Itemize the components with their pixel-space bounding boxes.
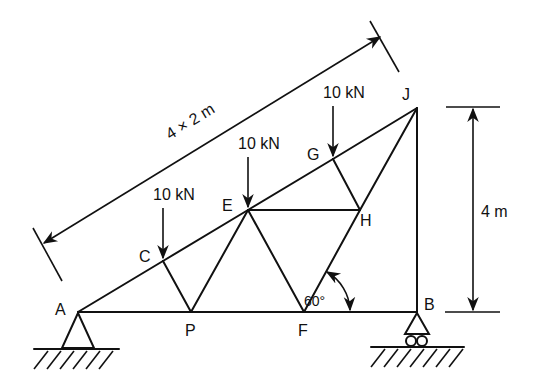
roller-support-B	[371, 313, 464, 367]
dimension-tick-right	[370, 21, 399, 72]
member-CP	[163, 261, 191, 312]
angle-marker: 60°	[304, 272, 350, 310]
hatch-line	[410, 349, 424, 367]
member-EF	[248, 210, 304, 312]
pin-support-triangle	[62, 313, 94, 348]
node-label-H: H	[360, 212, 372, 229]
hatch-line	[47, 351, 61, 369]
load-label-E: 10 kN	[238, 135, 280, 152]
member-GJ	[333, 108, 417, 159]
node-label-C: C	[139, 248, 151, 265]
hatch-line	[86, 351, 100, 369]
top-chord-dimension: 4 × 2 m	[33, 21, 399, 281]
hatch-line	[436, 349, 450, 367]
node-label-B: B	[424, 296, 435, 313]
hatch-line	[34, 351, 48, 369]
load-label-C: 10 kN	[153, 186, 195, 203]
height-dimension: 4 m	[445, 107, 508, 312]
hatch-line	[73, 351, 87, 369]
member-CE	[163, 210, 248, 261]
member-AC	[78, 261, 163, 312]
roller-left	[406, 336, 416, 346]
roller-right	[417, 336, 427, 346]
roller-support-triangle	[405, 313, 429, 334]
node-label-J: J	[402, 86, 410, 103]
member-EG	[248, 159, 333, 210]
dimension-line-top-chord	[44, 37, 380, 243]
node-label-A: A	[55, 301, 66, 318]
hatch-line	[384, 349, 398, 367]
ground-hatch-A	[34, 351, 113, 369]
hatch-line	[423, 349, 437, 367]
member-GH	[333, 159, 360, 210]
hatch-line	[60, 351, 74, 369]
node-label-P: P	[185, 322, 196, 339]
angle-arc	[327, 272, 350, 310]
ground-hatch-B	[371, 349, 463, 367]
node-label-F: F	[298, 322, 308, 339]
hatch-line	[449, 349, 463, 367]
member-HJ	[360, 108, 417, 210]
angle-label: 60°	[304, 293, 325, 309]
load-label-G: 10 kN	[323, 84, 365, 101]
dimension-label-height: 4 m	[481, 203, 508, 220]
hatch-line	[371, 349, 385, 367]
dimension-tick-left	[33, 228, 62, 281]
member-PE	[191, 210, 248, 312]
truss-diagram: 10 kN10 kN10 kN 4 × 2 m 4 m 60° A P F B	[0, 0, 543, 391]
hatch-line	[397, 349, 411, 367]
hatch-line	[99, 351, 113, 369]
dimension-label-top-chord: 4 × 2 m	[163, 100, 218, 143]
node-label-G: G	[307, 146, 319, 163]
pin-support-A	[34, 313, 119, 369]
truss-svg: 10 kN10 kN10 kN 4 × 2 m 4 m 60° A P F B	[0, 0, 543, 391]
node-label-E: E	[222, 197, 233, 214]
